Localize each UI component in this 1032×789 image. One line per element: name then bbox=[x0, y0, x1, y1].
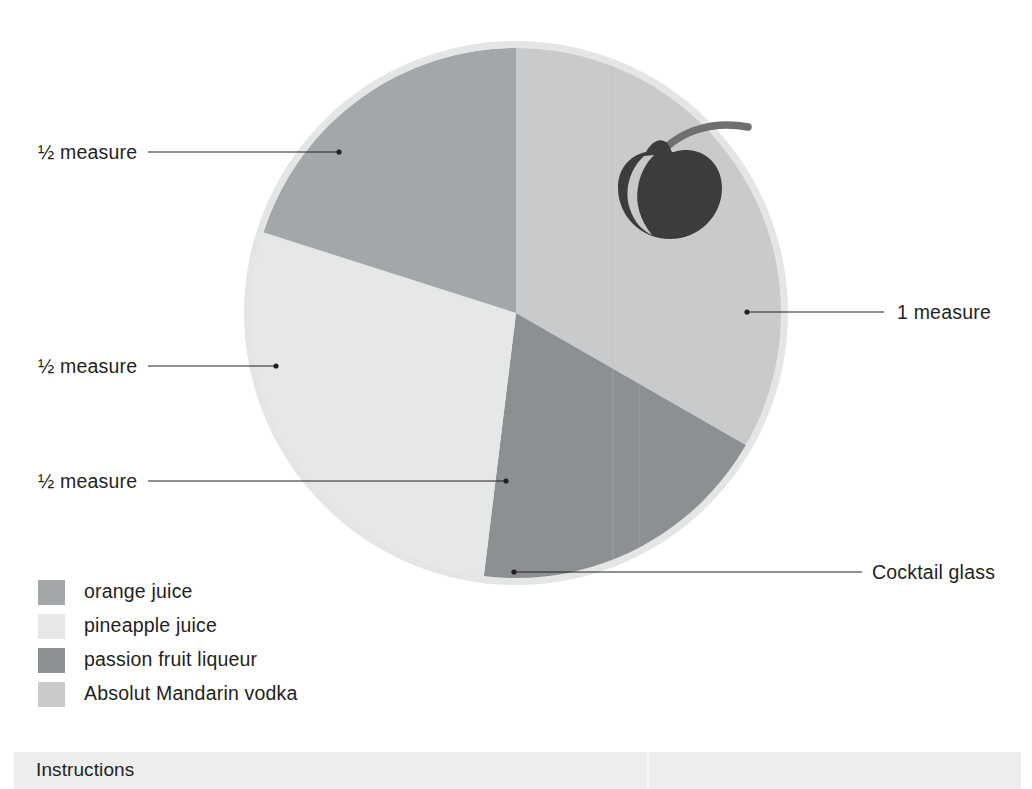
callout-passion-fruit-liqueur: ½ measure bbox=[38, 470, 137, 493]
legend-swatch-pineapple-juice bbox=[38, 614, 65, 639]
callout-vodka: 1 measure bbox=[897, 301, 991, 324]
leader-dot-orange-juice bbox=[336, 149, 341, 154]
legend-label-orange-juice: orange juice bbox=[84, 582, 193, 602]
callout-orange-juice: ½ measure bbox=[38, 141, 137, 164]
print-seam bbox=[612, 48, 613, 578]
leader-dot-glass bbox=[511, 569, 516, 574]
legend-item-pineapple-juice[interactable]: pineapple juice bbox=[38, 609, 458, 643]
instructions-section: Instructions bbox=[14, 752, 1021, 789]
leader-dot-vodka bbox=[744, 309, 749, 314]
legend-item-orange-juice[interactable]: orange juice bbox=[38, 575, 458, 609]
legend: orange juice pineapple juice passion fru… bbox=[38, 575, 458, 711]
leader-dot-pineapple-juice bbox=[273, 363, 278, 368]
instructions-heading: Instructions bbox=[36, 759, 134, 781]
bar-seam bbox=[647, 752, 649, 789]
legend-label-absolut-mandarin-vodka: Absolut Mandarin vodka bbox=[84, 684, 298, 704]
diagram-canvas: ½ measure ½ measure ½ measure 1 measure … bbox=[0, 0, 1032, 789]
legend-swatch-passion-fruit-liqueur bbox=[38, 648, 65, 673]
leader-dot-passion-fruit-liqueur bbox=[503, 478, 508, 483]
legend-swatch-absolut-mandarin-vodka bbox=[38, 682, 65, 707]
print-seam bbox=[639, 48, 640, 578]
legend-label-passion-fruit-liqueur: passion fruit liqueur bbox=[84, 650, 257, 670]
legend-label-pineapple-juice: pineapple juice bbox=[84, 616, 217, 636]
callout-cocktail-glass: Cocktail glass bbox=[872, 561, 995, 584]
callout-pineapple-juice: ½ measure bbox=[38, 355, 137, 378]
legend-item-absolut-mandarin-vodka[interactable]: Absolut Mandarin vodka bbox=[38, 677, 458, 711]
legend-swatch-orange-juice bbox=[38, 580, 65, 605]
legend-item-passion-fruit-liqueur[interactable]: passion fruit liqueur bbox=[38, 643, 458, 677]
